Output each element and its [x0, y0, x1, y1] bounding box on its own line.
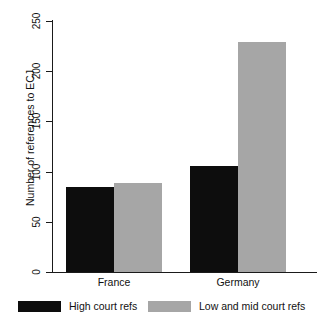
bar-france-series-1	[114, 183, 162, 272]
x-axis-line	[52, 272, 317, 273]
bar-germany-series-1	[238, 42, 286, 272]
bar-group	[0, 0, 325, 272]
y-axis-tick-mark	[46, 272, 52, 273]
legend-item-1: Low and mid court refs	[148, 298, 305, 314]
legend-label-0: High court refs	[69, 300, 137, 312]
legend-label-1: Low and mid court refs	[199, 300, 305, 312]
category-label-france: France	[64, 276, 164, 288]
chart-figure: Number of references to ECJ 250200150100…	[0, 0, 325, 328]
category-label-germany: Germany	[188, 276, 288, 288]
plot-area: Number of references to ECJ 250200150100…	[0, 0, 325, 292]
legend-item-0: High court refs	[18, 298, 137, 314]
bar-germany-series-0	[190, 166, 238, 272]
bar-france-series-0	[66, 187, 114, 272]
legend-swatch-0	[18, 301, 61, 312]
chart-legend: High court refsLow and mid court refs	[0, 298, 325, 318]
legend-swatch-1	[148, 301, 191, 312]
